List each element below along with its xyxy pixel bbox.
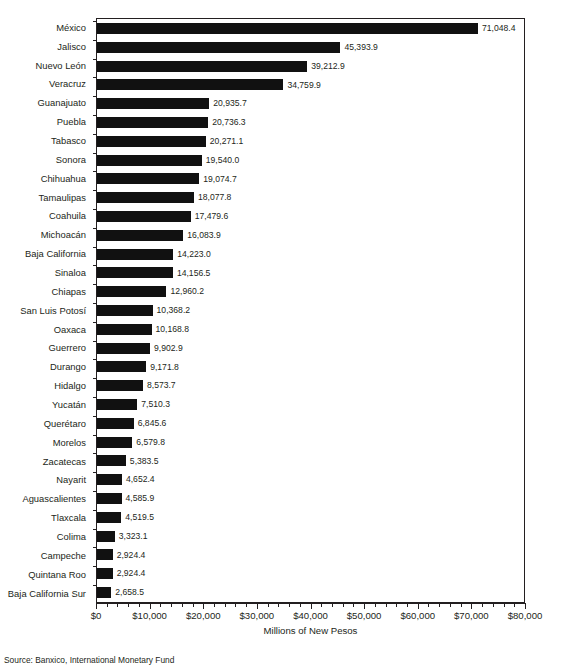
bar-row: 6,579.8 <box>97 435 524 450</box>
x-axis-minor-tick <box>504 603 505 607</box>
y-axis-tick <box>93 359 97 360</box>
y-axis-tick <box>93 59 97 60</box>
x-axis-minor-tick <box>493 603 494 607</box>
bar-row: 9,902.9 <box>97 341 524 356</box>
y-axis-tick <box>93 303 97 304</box>
bar-value-label: 2,924.4 <box>117 551 146 560</box>
bar-value-label: 4,519.5 <box>125 513 154 522</box>
x-axis-minor-tick <box>107 603 108 607</box>
x-axis-tick-label: $70,000 <box>454 610 489 621</box>
x-axis-tick-label: $50,000 <box>347 610 382 621</box>
bar <box>97 136 206 147</box>
bar-row: 6,845.6 <box>97 416 524 431</box>
bar-value-label: 7,510.3 <box>141 400 170 409</box>
bar-row: 14,156.5 <box>97 265 524 280</box>
y-axis-category-label: Tabasco <box>0 133 91 148</box>
bar <box>97 531 115 542</box>
y-axis-tick <box>93 77 97 78</box>
x-axis-minor-tick <box>268 603 269 607</box>
y-axis-tick <box>93 284 97 285</box>
y-axis-tick <box>93 265 97 266</box>
x-axis-minor-tick <box>246 603 247 607</box>
x-axis-tick-labels: $0$10,000$20,000$30,000$40,000$50,000$60… <box>0 610 562 626</box>
bar <box>97 98 209 109</box>
bar-value-label: 3,323.1 <box>119 532 148 541</box>
bar <box>97 568 113 579</box>
bar-rows: 71,048.445,393.939,212.934,759.920,935.7… <box>97 19 524 602</box>
bar-value-label: 5,383.5 <box>130 457 159 466</box>
x-axis-minor-tick <box>160 603 161 607</box>
y-axis-tick <box>93 115 97 116</box>
x-axis-tick-label: $80,000 <box>508 610 543 621</box>
bar <box>97 305 153 316</box>
x-axis-minor-tick <box>407 603 408 607</box>
y-axis-tick <box>93 585 97 586</box>
bar <box>97 418 134 429</box>
y-axis-category-label: Querétaro <box>0 416 91 431</box>
x-axis-major-tick <box>257 603 258 609</box>
bar <box>97 493 122 504</box>
bar-value-label: 19,540.0 <box>206 156 239 165</box>
bar-row: 19,540.0 <box>97 153 524 168</box>
y-axis-tick <box>93 416 97 417</box>
bar-row: 5,383.5 <box>97 453 524 468</box>
y-axis-tick <box>93 491 97 492</box>
bar-value-label: 9,171.8 <box>150 363 179 372</box>
bar <box>97 587 111 598</box>
y-axis-category-label: Tlaxcala <box>0 510 91 525</box>
x-axis-major-tick <box>364 603 365 609</box>
y-axis-category-label: Chiapas <box>0 284 91 299</box>
y-axis-tick <box>93 209 97 210</box>
bar <box>97 173 199 184</box>
y-axis-category-label: Tamaulipas <box>0 190 91 205</box>
bar <box>97 324 152 335</box>
y-axis-category-label: San Luis Potosí <box>0 303 91 318</box>
x-axis-minor-tick <box>353 603 354 607</box>
plot-area: 71,048.445,393.939,212.934,759.920,935.7… <box>96 18 525 603</box>
y-axis-category-label: Morelos <box>0 435 91 450</box>
bar <box>97 361 146 372</box>
x-axis-minor-tick <box>214 603 215 607</box>
y-axis-tick <box>93 247 97 248</box>
bar-row: 4,519.5 <box>97 510 524 525</box>
bar <box>97 380 143 391</box>
y-axis-tick <box>93 153 97 154</box>
bar-row: 71,048.4 <box>97 21 524 36</box>
x-axis-minor-tick <box>450 603 451 607</box>
bar <box>97 249 173 260</box>
bar-value-label: 71,048.4 <box>482 24 515 33</box>
x-axis-minor-tick <box>461 603 462 607</box>
y-axis-category-label: Jalisco <box>0 39 91 54</box>
bar-row: 4,585.9 <box>97 491 524 506</box>
bar-row: 3,323.1 <box>97 529 524 544</box>
bar-value-label: 9,902.9 <box>154 344 183 353</box>
y-axis-category-label: Aguascalientes <box>0 491 91 506</box>
bar-value-label: 6,579.8 <box>136 438 165 447</box>
bar-row: 2,924.4 <box>97 547 524 562</box>
y-axis-tick <box>93 341 97 342</box>
x-axis-minor-tick <box>321 603 322 607</box>
x-axis-tick-label: $30,000 <box>240 610 275 621</box>
x-axis-major-tick <box>471 603 472 609</box>
y-axis-category-label: Hidalgo <box>0 378 91 393</box>
x-axis-minor-tick <box>182 603 183 607</box>
x-axis-minor-tick <box>128 603 129 607</box>
bar-value-label: 14,156.5 <box>177 269 210 278</box>
x-axis-major-tick <box>150 603 151 609</box>
bar-row: 19,074.7 <box>97 171 524 186</box>
bar-value-label: 2,658.5 <box>115 588 144 597</box>
y-axis-category-label: Yucatán <box>0 397 91 412</box>
x-axis-minor-tick <box>300 603 301 607</box>
x-axis-minor-tick <box>343 603 344 607</box>
bar-value-label: 20,271.1 <box>210 137 243 146</box>
y-axis-tick <box>93 190 97 191</box>
bar-row: 10,168.8 <box>97 322 524 337</box>
bar <box>97 42 340 53</box>
y-axis-category-label: Sonora <box>0 152 91 167</box>
y-axis-category-label: México <box>0 20 91 35</box>
bar-row: 20,736.3 <box>97 115 524 130</box>
x-axis-minor-tick <box>139 603 140 607</box>
x-axis-minor-tick <box>386 603 387 607</box>
bar <box>97 155 202 166</box>
bar-value-label: 34,759.9 <box>287 81 320 90</box>
